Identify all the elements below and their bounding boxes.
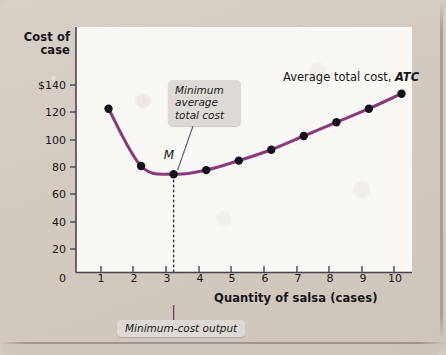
series-label-text: Average total cost,	[283, 70, 391, 84]
data-point-2	[137, 162, 145, 170]
series-label: Average total cost, ATC	[283, 70, 419, 84]
data-point-10	[397, 90, 405, 98]
callout-min-line1: Minimum	[175, 84, 235, 96]
page-bottom-rule	[0, 342, 446, 344]
atc-curve	[109, 94, 402, 175]
series-label-abbrev: ATC	[395, 70, 419, 84]
callout-min-leader	[178, 126, 193, 170]
data-point-3	[169, 170, 177, 178]
data-point-7	[300, 132, 308, 140]
data-point-1	[104, 105, 112, 113]
data-point-markers	[104, 90, 405, 179]
minimum-point-label: M	[164, 148, 174, 162]
callout-minimum-cost-output: Minimum-cost output	[117, 320, 245, 337]
data-point-6	[267, 146, 275, 154]
page-right-edge	[440, 2, 443, 341]
x-axis-ticks	[101, 266, 394, 272]
callout-minimum-average-total-cost: Minimum average total cost	[168, 80, 241, 126]
chart-svg	[0, 0, 446, 355]
callout-min-line3: total cost	[175, 109, 235, 121]
y-axis-ticks	[70, 85, 76, 249]
data-point-8	[332, 118, 340, 126]
callout-min-line2: average	[175, 96, 235, 108]
data-point-9	[365, 105, 373, 113]
data-point-5	[235, 156, 243, 164]
figure-panel: Cost of case Quantity of salsa (cases) $…	[0, 0, 446, 355]
data-point-4	[202, 166, 210, 174]
